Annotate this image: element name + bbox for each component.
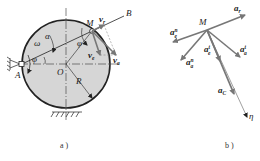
label-eta: η <box>249 111 254 121</box>
label-ar: ar <box>234 3 242 14</box>
vector-vr <box>92 25 104 31</box>
label-aat: ata <box>240 44 247 56</box>
label-aan: ana <box>186 57 194 69</box>
label-aC: aC <box>218 85 227 96</box>
caption-a: a ) <box>60 141 69 150</box>
pin-support-A <box>7 57 24 71</box>
label-R: R <box>75 76 82 86</box>
label-aen: ane <box>170 27 178 39</box>
label-M: M <box>85 18 94 28</box>
label-omega: ω <box>34 38 40 48</box>
figure-a: M B A O R ω α φ φ vr ve va a ) <box>7 8 132 150</box>
label-phi-2: φ <box>77 38 82 48</box>
ground-support-bottom <box>51 112 82 117</box>
label-aet: ate <box>204 44 211 56</box>
vector-ar <box>207 15 245 30</box>
figure-b: M ar ane ana ate ata aC η b ) <box>170 3 254 150</box>
label-va: va <box>113 55 120 66</box>
label-B: B <box>126 8 132 18</box>
label-M-b: M <box>198 17 207 27</box>
label-O: O <box>57 67 64 77</box>
label-A: A <box>14 70 21 80</box>
label-phi-1: φ <box>32 54 37 64</box>
label-vr: vr <box>99 14 106 25</box>
label-alpha: α <box>45 31 50 41</box>
caption-b: b ) <box>225 141 234 150</box>
